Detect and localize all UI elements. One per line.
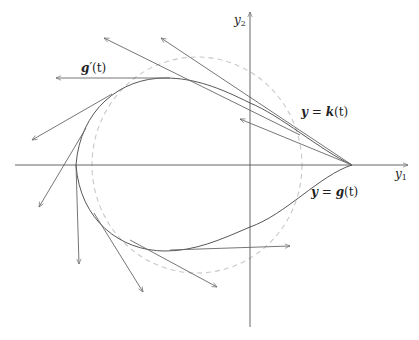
tangent-vector-arrow xyxy=(32,94,112,140)
lower-curve-g xyxy=(76,165,352,251)
tangent-vector-arrow xyxy=(161,38,352,165)
lower-curve-label: y = g(t) xyxy=(310,185,358,199)
tangent-label: g′(t) xyxy=(81,61,106,75)
tangent-vector-arrow xyxy=(76,165,79,264)
y2-axis-label: y2 xyxy=(233,13,246,28)
upper-curve-k xyxy=(76,78,352,165)
parametric-curve-diagram: y2 y1 g′(t) y = k(t) y = g(t) xyxy=(0,0,419,340)
upper-curve-label: y = k(t) xyxy=(300,105,348,119)
tangent-vector-arrow xyxy=(94,213,143,292)
tangent-vector-arrow xyxy=(104,38,300,135)
tangent-vector-arrow xyxy=(170,246,290,250)
tangent-vector-arrow xyxy=(130,240,217,287)
tangent-vector-arrow xyxy=(240,119,352,165)
y1-axis-label: y1 xyxy=(394,167,407,182)
tangent-vector-arrow xyxy=(39,128,86,207)
